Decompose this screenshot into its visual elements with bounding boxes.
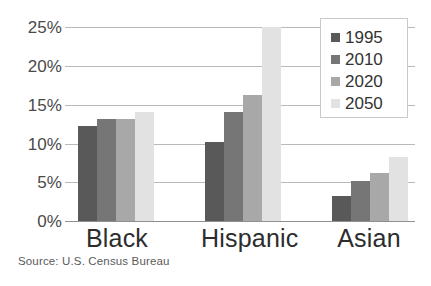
legend-label-2050: 2050: [345, 95, 383, 112]
bar-asian-2020[interactable]: [370, 173, 389, 221]
category-label-black: Black: [78, 224, 156, 253]
y-tick-label-5: 5%: [0, 173, 62, 193]
legend-swatch-icon-2020: [331, 77, 340, 86]
legend: 1995 2010 2020 2050: [320, 18, 408, 118]
bar-black-1995[interactable]: [78, 126, 97, 221]
bar-chart: 25% 20% 15% 10% 5% 0%: [0, 0, 431, 286]
y-tick-mark-10: [65, 144, 78, 145]
y-tick-label-0: 0%: [0, 212, 62, 232]
legend-item-1995[interactable]: 1995: [331, 26, 407, 48]
y-tick-mark-15: [65, 105, 78, 106]
bar-hispanic-2050[interactable]: [262, 27, 281, 221]
bar-group-black: [78, 27, 156, 221]
bar-hispanic-2010[interactable]: [224, 112, 243, 221]
y-tick-label-20: 20%: [0, 57, 62, 77]
source-note: Source: U.S. Census Bureau: [18, 255, 170, 267]
bar-asian-2010[interactable]: [351, 181, 370, 221]
category-label-asian: Asian: [330, 224, 408, 253]
y-tick-label-15: 15%: [0, 96, 62, 116]
y-tick-mark-25: [65, 27, 78, 28]
y-tick-label-10: 10%: [0, 135, 62, 155]
bar-hispanic-2020[interactable]: [243, 95, 262, 221]
axis-baseline: [78, 221, 415, 222]
bar-black-2020[interactable]: [116, 119, 135, 221]
legend-label-1995: 1995: [345, 29, 383, 46]
bar-group-hispanic: [205, 27, 283, 221]
legend-swatch-icon-2050: [331, 99, 340, 108]
bar-black-2010[interactable]: [97, 119, 116, 221]
y-tick-mark-5: [65, 182, 78, 183]
y-tick-mark-0: [65, 221, 78, 222]
y-axis-labels: 25% 20% 15% 10% 5% 0%: [0, 0, 62, 286]
legend-label-2020: 2020: [345, 73, 383, 90]
legend-swatch-icon-2010: [331, 55, 340, 64]
bar-asian-2050[interactable]: [389, 157, 408, 221]
legend-label-2010: 2010: [345, 51, 383, 68]
category-label-hispanic: Hispanic: [201, 224, 285, 253]
bar-hispanic-1995[interactable]: [205, 142, 224, 221]
legend-swatch-icon-1995: [331, 33, 340, 42]
bar-black-2050[interactable]: [135, 112, 154, 221]
legend-item-2020[interactable]: 2020: [331, 70, 407, 92]
legend-item-2050[interactable]: 2050: [331, 92, 407, 114]
y-tick-mark-20: [65, 66, 78, 67]
legend-item-2010[interactable]: 2010: [331, 48, 407, 70]
bar-asian-1995[interactable]: [332, 196, 351, 221]
y-tick-label-25: 25%: [0, 18, 62, 38]
